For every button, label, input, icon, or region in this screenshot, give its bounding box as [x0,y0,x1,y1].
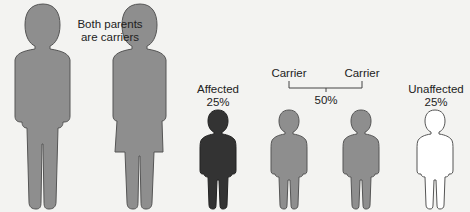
carrier-label-2: Carrier [339,67,385,80]
parents-caption-line2: are carriers [70,31,150,44]
unaffected-label: Unaffected 25% [408,83,464,109]
unaffected-status: Unaffected [408,83,464,96]
carrier-label-1: Carrier [266,67,312,80]
affected-status: Affected [193,83,243,96]
carrier-child-figure-2 [343,110,379,209]
affected-label: Affected 25% [193,83,243,109]
affected-percent: 25% [193,96,243,109]
carrier-child-figure-1 [271,110,307,209]
parents-caption-line1: Both parents [70,18,150,31]
unaffected-child-figure [417,110,453,209]
carrier-percent: 50% [306,94,346,107]
affected-child-figure [200,110,236,209]
unaffected-percent: 25% [408,96,464,109]
parents-caption: Both parents are carriers [70,18,150,44]
male-parent-carrier-figure [15,4,70,209]
carrier-bracket [289,81,362,92]
